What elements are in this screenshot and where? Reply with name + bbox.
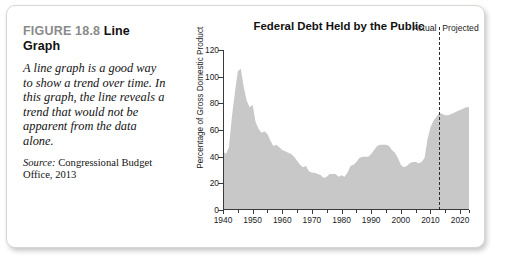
source-label: Source: — [23, 157, 56, 168]
x-tick-label: 1960 — [273, 215, 292, 225]
x-tick-mark-minor — [267, 210, 268, 213]
x-axis-line — [223, 209, 469, 210]
x-tick-mark-minor — [386, 210, 387, 213]
y-axis-line — [223, 50, 224, 210]
figure-panel: FIGURE 18.8 Line Graph A line graph is a… — [6, 5, 485, 248]
chart-area: Federal Debt Held by the Public Percenta… — [175, 20, 475, 240]
label-projected: Projected — [439, 23, 478, 33]
area-series-svg — [223, 50, 469, 210]
y-tick-mark — [218, 130, 223, 131]
x-tick-label: 1990 — [362, 215, 381, 225]
x-tick-mark-minor — [238, 210, 239, 213]
x-tick-label: 2020 — [451, 215, 470, 225]
x-tick-mark-minor — [356, 210, 357, 213]
y-tick-label: 120 — [205, 45, 219, 55]
x-tick-label: 1940 — [214, 215, 233, 225]
plot-wrapper: 020406080100120 194019501960197019801990… — [223, 50, 469, 210]
x-tick-label: 1950 — [243, 215, 262, 225]
x-tick-mark-minor — [327, 210, 328, 213]
figure-number: FIGURE 18.8 — [23, 24, 100, 38]
x-tick-label: 2010 — [421, 215, 440, 225]
x-tick-mark-major — [223, 210, 224, 214]
x-tick-mark-major — [282, 210, 283, 214]
y-tick-mark — [218, 103, 223, 104]
area-path — [223, 69, 469, 210]
x-tick-mark-minor — [469, 210, 470, 213]
x-tick-label: 1980 — [332, 215, 351, 225]
y-tick-label: 100 — [205, 72, 219, 82]
x-tick-mark-minor — [445, 210, 446, 213]
x-tick-mark-major — [253, 210, 254, 214]
x-tick-label: 2000 — [392, 215, 411, 225]
figure-heading: FIGURE 18.8 Line Graph — [23, 24, 169, 54]
y-tick-mark — [218, 50, 223, 51]
actual-projected-divider — [439, 27, 440, 210]
x-tick-mark-major — [371, 210, 372, 214]
x-tick-mark-major — [430, 210, 431, 214]
x-tick-mark-minor — [297, 210, 298, 213]
x-tick-mark-major — [312, 210, 313, 214]
figure-caption-text: A line graph is a good way to show a tre… — [23, 61, 169, 149]
y-tick-mark — [218, 183, 223, 184]
x-tick-mark-major — [342, 210, 343, 214]
x-tick-mark-major — [401, 210, 402, 214]
label-actual: Actual — [412, 23, 439, 33]
x-tick-mark-major — [460, 210, 461, 214]
y-tick-mark — [218, 77, 223, 78]
caption-column: FIGURE 18.8 Line Graph A line graph is a… — [23, 24, 169, 182]
y-tick-mark — [218, 157, 223, 158]
x-tick-mark-minor — [416, 210, 417, 213]
figure-source: Source: Congressional Budget Office, 201… — [23, 157, 169, 182]
x-tick-label: 1970 — [303, 215, 322, 225]
